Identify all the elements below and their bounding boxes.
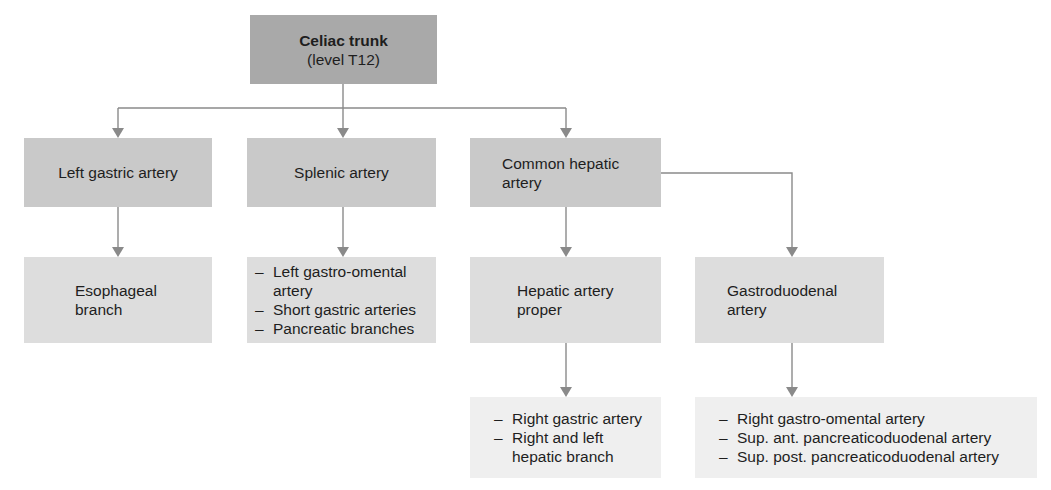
celiac-trunk-node: Celiac trunk (level T12) <box>250 15 437 84</box>
hepatic-artery-proper-line1: Hepatic artery <box>517 281 661 300</box>
gastroduodenal-artery-line1: Gastroduodenal <box>727 281 884 300</box>
left-gastric-artery-node: Left gastric artery <box>24 138 212 207</box>
common-hepatic-artery-line1: Common hepatic <box>502 154 661 173</box>
list-item: Sup. ant. pancreaticoduodenal artery <box>719 428 1037 447</box>
common-hepatic-artery-line2: artery <box>502 173 661 192</box>
esophageal-branch-line1: Esophageal <box>75 281 212 300</box>
gastroduodenal-branches-list: Right gastro-omental artery Sup. ant. pa… <box>719 409 1037 466</box>
splenic-branches-node: Left gastro-omentalartery Short gastric … <box>247 257 436 343</box>
splenic-branches-list: Left gastro-omentalartery Short gastric … <box>255 262 436 338</box>
hepatic-proper-branches-list: Right gastric artery Right and lefthepat… <box>494 409 661 466</box>
hepatic-artery-proper-node: Hepatic artery proper <box>470 257 661 343</box>
list-item: Right gastric artery <box>494 409 661 428</box>
hepatic-artery-proper-line2: proper <box>517 300 661 319</box>
splenic-artery-node: Splenic artery <box>247 138 436 207</box>
list-item: Right gastro-omental artery <box>719 409 1037 428</box>
gastroduodenal-artery-node: Gastroduodenal artery <box>695 257 884 343</box>
esophageal-branch-node: Esophageal branch <box>24 257 212 343</box>
celiac-trunk-level: (level T12) <box>307 50 380 69</box>
list-item: Right and lefthepatic branch <box>494 428 661 466</box>
celiac-trunk-title: Celiac trunk <box>299 31 388 50</box>
gastroduodenal-artery-line2: artery <box>727 300 884 319</box>
left-gastric-artery-label: Left gastric artery <box>58 163 178 182</box>
list-item: Sup. post. pancreaticoduodenal artery <box>719 447 1037 466</box>
splenic-artery-label: Splenic artery <box>294 163 389 182</box>
list-item: Pancreatic branches <box>255 319 436 338</box>
esophageal-branch-line2: branch <box>75 300 212 319</box>
gastroduodenal-branches-node: Right gastro-omental artery Sup. ant. pa… <box>695 397 1037 478</box>
list-item: Short gastric arteries <box>255 300 436 319</box>
list-item: Left gastro-omentalartery <box>255 262 436 300</box>
hepatic-proper-branches-node: Right gastric artery Right and lefthepat… <box>470 397 661 478</box>
common-hepatic-artery-node: Common hepatic artery <box>470 138 661 207</box>
